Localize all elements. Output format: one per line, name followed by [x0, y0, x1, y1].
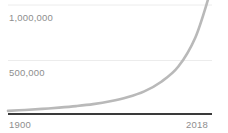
x-axis-tick-label-end: 2018 [186, 120, 208, 130]
x-axis-tick-label-start: 1900 [9, 120, 31, 130]
chart-container: 1,000,000 500,000 1900 2018 [0, 0, 228, 133]
y-axis-tick-label-mid: 500,000 [9, 68, 45, 78]
y-axis-tick-label-top: 1,000,000 [9, 13, 53, 23]
